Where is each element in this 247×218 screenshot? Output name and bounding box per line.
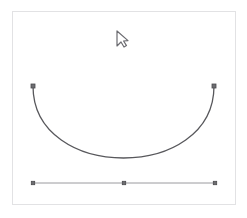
drawing-canvas[interactable] bbox=[12, 11, 236, 205]
baseline-label: horizontal-baseline bbox=[0, 0, 1, 1]
app-title: Curve Editor Canvas bbox=[0, 0, 1, 1]
app-root: Curve Editor Canvas bezier-curve horizon… bbox=[0, 0, 247, 218]
cursor-label: mouse-pointer bbox=[0, 0, 1, 1]
curve-label: bezier-curve bbox=[0, 0, 1, 1]
